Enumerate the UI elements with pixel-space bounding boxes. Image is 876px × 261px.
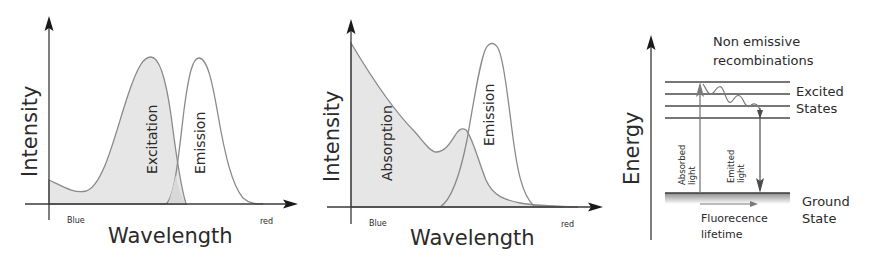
x-start-label: Blue: [67, 216, 85, 225]
lifetime-label-line1: Fluorecence: [701, 212, 768, 225]
curve-label-excitation: Excitation: [144, 105, 160, 174]
curve-label-absorption: Absorption: [379, 105, 395, 181]
excitation-curve: [49, 57, 186, 204]
y-axis-label: Intensity: [320, 91, 344, 182]
emitted-light-label-line1: Emitted: [726, 150, 736, 183]
absorbed-light-label-line1: Absorbed: [677, 145, 687, 185]
curve-label-emission: Emission: [481, 84, 497, 146]
non-emissive-label-line1: Non emissive: [713, 34, 800, 49]
ground-state-shading: [665, 193, 790, 204]
absorbed-light-label-line2: light: [687, 165, 697, 185]
excited-states-label-line2: States: [796, 101, 837, 116]
fluorescence-diagram: Excitation Emission Intensity Blue red W…: [0, 0, 876, 261]
x-end-label: red: [260, 217, 273, 226]
excited-states-label-line1: Excited: [796, 84, 844, 99]
panel-excitation-emission: Excitation Emission Intensity Blue red W…: [18, 16, 298, 248]
x-axis-label: Wavelength: [410, 226, 535, 250]
x-end-label: red: [561, 220, 574, 229]
x-axis-label: Wavelength: [108, 224, 233, 248]
energy-axis-label: Energy: [620, 111, 644, 185]
panel-jablonski: Energy Non emissive recombinations Excit…: [620, 34, 850, 241]
emitted-light-label-line2: light: [736, 163, 746, 183]
non-emissive-label-line2: recombinations: [713, 53, 814, 68]
ground-state-label-line1: Ground: [802, 194, 850, 209]
curve-label-emission: Emission: [192, 112, 208, 174]
ground-state-label-line2: State: [802, 211, 836, 226]
x-start-label: Blue: [369, 219, 387, 228]
panel-absorption-emission: Absorption Emission Intensity Blue red W…: [320, 19, 603, 250]
lifetime-label-line2: lifetime: [701, 228, 743, 241]
y-axis-label: Intensity: [18, 86, 42, 177]
